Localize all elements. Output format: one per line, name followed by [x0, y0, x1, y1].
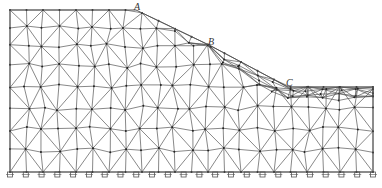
- point-label-c: C: [286, 77, 293, 88]
- finite-element-mesh: [0, 0, 382, 188]
- point-label-b: B: [208, 36, 214, 47]
- point-label-a: A: [134, 1, 140, 12]
